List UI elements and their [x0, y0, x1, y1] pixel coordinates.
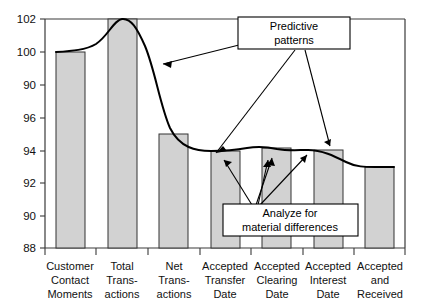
y-tick-label-7: 88 [23, 242, 36, 254]
predictive-arrowhead-3 [324, 139, 331, 146]
x-label-3-line3: Date [213, 288, 236, 300]
predictive-leader-1 [163, 45, 239, 64]
x-label-5-line2: Interest [310, 274, 347, 286]
x-label-6-line2: and [371, 274, 389, 286]
x-label-2-line1: Net [165, 260, 182, 272]
x-label-0-line3: Moments [47, 288, 93, 300]
x-label-6-line1: Accepted [357, 260, 403, 272]
x-label-0-line1: Customer [46, 260, 94, 272]
bar-net-transactions [159, 134, 188, 248]
x-label-1-line1: Total [110, 260, 133, 272]
predictive-leader-3 [305, 50, 330, 146]
y-tick-label-6: 90 [23, 210, 36, 222]
x-label-5-line1: Accepted [305, 260, 351, 272]
y-axis-tick-labels: 102 100 90 96 94 92 90 88 [17, 13, 37, 254]
x-label-0-line2: Contact [51, 274, 89, 286]
x-label-4-line2: Clearing [257, 274, 298, 286]
y-tick-label-2: 90 [23, 79, 36, 91]
predictive-leader-2 [216, 50, 295, 153]
x-label-4-line1: Accepted [254, 260, 300, 272]
bar-total-transactions [108, 19, 137, 248]
y-tick-label-0: 102 [17, 13, 36, 25]
x-label-3-line2: Transfer [205, 274, 246, 286]
analyze-line1: Analyze for [262, 207, 317, 219]
y-tick-label-3: 96 [23, 112, 36, 124]
bar-line-combo-chart: 102 100 90 96 94 92 90 88 [0, 0, 426, 308]
predictive-patterns-line2: patterns [274, 34, 314, 46]
x-axis-ticks [45, 248, 405, 255]
callout-predictive-patterns: Predictive patterns [163, 17, 350, 153]
y-tick-label-4: 94 [23, 145, 36, 157]
predictive-arrowhead-1 [163, 61, 172, 68]
x-label-2-line2: Trans- [158, 274, 190, 286]
chart-figure: 102 100 90 96 94 92 90 88 [0, 0, 426, 308]
predictive-patterns-line1: Predictive [270, 20, 318, 32]
x-label-4-line3: Date [265, 288, 288, 300]
analyze-line2: material differences [242, 221, 338, 233]
x-label-6-line3: Received [357, 288, 403, 300]
y-tick-label-5: 92 [23, 177, 36, 189]
x-axis-category-labels: Customer Contact Moments Total Trans- ac… [46, 260, 403, 300]
x-label-5-line3: Date [316, 288, 339, 300]
y-axis-ticks [40, 19, 45, 248]
bar-accepted-and-received [365, 167, 394, 248]
y-tick-label-1: 100 [17, 46, 36, 58]
x-label-1-line2: Trans- [106, 274, 138, 286]
x-label-1-line3: actions [105, 288, 140, 300]
x-label-2-line3: actions [157, 288, 192, 300]
bar-customer-contact-moments [56, 52, 85, 248]
x-label-3-line1: Accepted [202, 260, 248, 272]
